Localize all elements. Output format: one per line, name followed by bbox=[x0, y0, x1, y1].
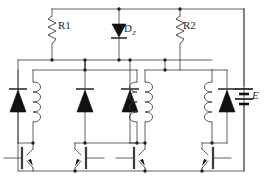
coil-1 bbox=[33, 82, 41, 122]
label-battery-e: E bbox=[252, 90, 259, 101]
junction-dot bbox=[83, 141, 86, 144]
junction-dot bbox=[143, 141, 146, 144]
flyback-diode-4 bbox=[218, 89, 236, 112]
label-dz-subscript: Z bbox=[132, 29, 136, 37]
junction-dot bbox=[83, 68, 86, 71]
junction-dot bbox=[31, 141, 34, 144]
junction-dot bbox=[50, 58, 53, 61]
junction-dot bbox=[83, 58, 86, 61]
junction-dot bbox=[143, 169, 146, 172]
junction-dot bbox=[73, 169, 76, 172]
resistor-r1 bbox=[48, 16, 56, 44]
schematic-canvas: R1 DZ R2 E bbox=[0, 0, 270, 184]
coil-4 bbox=[205, 82, 213, 122]
flyback-diode-2 bbox=[76, 89, 94, 112]
junction-dot bbox=[163, 58, 166, 61]
junction-dot bbox=[178, 7, 181, 10]
junction-dot bbox=[200, 169, 203, 172]
junction-dot bbox=[135, 141, 138, 144]
label-dz: DZ bbox=[124, 23, 136, 37]
junction-dots bbox=[31, 7, 213, 172]
wire-q4-collector bbox=[202, 149, 208, 155]
label-dz-letter: D bbox=[124, 22, 132, 34]
junction-dot bbox=[117, 7, 120, 10]
label-r1: R1 bbox=[58, 20, 71, 31]
wire-q2-collector bbox=[75, 149, 81, 155]
coil-3 bbox=[145, 82, 153, 122]
wire-q3-collector bbox=[139, 149, 145, 155]
label-r2: R2 bbox=[183, 20, 196, 31]
wire-q1-collector bbox=[27, 149, 33, 155]
junction-dot bbox=[117, 58, 120, 61]
junction-dot bbox=[163, 68, 166, 71]
junction-dot bbox=[128, 58, 131, 61]
junction-dot bbox=[210, 141, 213, 144]
flyback-diode-1 bbox=[9, 89, 27, 112]
